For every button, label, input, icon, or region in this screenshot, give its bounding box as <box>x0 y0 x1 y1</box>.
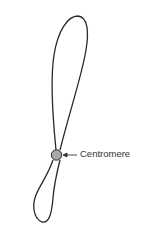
centromere-icon <box>51 150 61 160</box>
arrow-left-icon <box>63 153 77 157</box>
chromosome-diagram <box>0 0 151 234</box>
upper-chromatid-arm <box>52 16 87 150</box>
centromere-label: Centromere <box>80 148 130 159</box>
lower-chromatid-arm <box>34 160 60 222</box>
